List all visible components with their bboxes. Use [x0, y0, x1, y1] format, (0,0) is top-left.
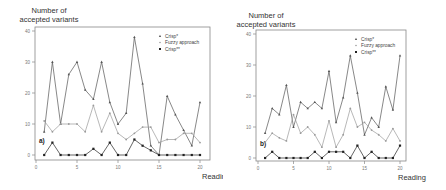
data-point	[342, 134, 344, 136]
x-axis-title: Reading	[202, 172, 223, 181]
x-tick-label: 5	[76, 165, 79, 170]
data-point	[314, 101, 316, 103]
chart-panel-a: Number of accepted variants 010203040051…	[0, 0, 223, 190]
data-point	[385, 140, 387, 142]
x-tick-label: 10	[326, 166, 332, 171]
data-point	[43, 130, 45, 132]
x-tick-label: 5	[292, 166, 295, 171]
data-point	[158, 154, 160, 156]
line-chart-b: 01020304005101520Readingb)Crisp*Fuzzy ap…	[223, 0, 446, 190]
y-tick-label: 20	[25, 91, 31, 96]
data-point	[158, 142, 160, 144]
data-point	[264, 142, 266, 144]
y-tick-label: 40	[25, 29, 31, 34]
data-point	[392, 157, 394, 159]
y-tick-label: 30	[25, 60, 31, 65]
data-point	[335, 151, 337, 153]
data-point	[141, 82, 143, 84]
data-point	[321, 157, 323, 159]
data-point	[68, 123, 70, 125]
data-point	[392, 128, 394, 130]
data-point	[307, 126, 309, 128]
x-axis-title: Reading	[398, 173, 426, 182]
data-point	[342, 151, 344, 153]
legend-marker-icon	[159, 48, 161, 50]
y-tick-label: 20	[246, 94, 252, 99]
data-point	[76, 154, 78, 156]
data-point	[392, 109, 394, 111]
data-point	[314, 151, 316, 153]
data-point	[133, 138, 135, 140]
data-point	[385, 85, 387, 87]
data-point	[166, 154, 168, 156]
legend-marker-icon	[159, 35, 161, 37]
data-point	[60, 154, 62, 156]
data-point	[109, 101, 111, 103]
data-point	[271, 151, 273, 153]
data-point	[183, 154, 185, 156]
data-point	[101, 131, 103, 133]
y-tick-label: 30	[246, 63, 252, 68]
chart-panel-b: Number of accepted variants 010203040051…	[223, 0, 446, 190]
line-chart-a: 01020304005101520Readinga)Crisp*Fuzzy ap…	[0, 0, 223, 190]
data-point	[399, 54, 401, 56]
data-point	[199, 101, 201, 103]
data-point	[51, 142, 53, 144]
legend-marker-icon	[355, 45, 357, 47]
data-point	[101, 154, 103, 156]
data-point	[363, 157, 365, 159]
panel-label: a)	[39, 137, 45, 145]
data-point	[109, 112, 111, 114]
data-point	[199, 142, 201, 144]
legend-label: Crisp*	[361, 37, 374, 42]
data-point	[271, 107, 273, 109]
data-point	[52, 131, 54, 133]
x-tick-label: 0	[257, 166, 260, 171]
data-point	[370, 116, 372, 118]
data-point	[357, 126, 359, 128]
data-point	[300, 157, 302, 159]
data-point	[378, 134, 380, 136]
legend-label: Crisp*	[165, 34, 178, 39]
x-tick-label: 15	[156, 165, 162, 170]
data-point	[363, 133, 365, 135]
data-point	[93, 105, 95, 107]
data-point	[125, 139, 127, 141]
data-point	[328, 70, 330, 72]
series-line	[44, 140, 200, 156]
data-point	[300, 132, 302, 134]
legend-marker-icon	[159, 42, 161, 44]
x-tick-label: 15	[362, 166, 368, 171]
data-point	[68, 154, 70, 156]
plot-frame	[256, 30, 406, 161]
series-line	[265, 56, 400, 135]
y-tick-label: 10	[25, 122, 31, 127]
data-point	[125, 112, 127, 114]
data-point	[342, 96, 344, 98]
data-point	[286, 140, 288, 142]
data-point	[150, 144, 152, 146]
data-point	[364, 121, 366, 123]
data-point	[285, 157, 287, 159]
x-tick-label: 20	[197, 165, 203, 170]
data-point	[142, 126, 144, 128]
data-point	[335, 121, 337, 123]
data-point	[349, 54, 351, 56]
legend-marker-icon	[355, 38, 357, 40]
data-point	[166, 95, 168, 97]
y-tick-label: 0	[248, 156, 251, 161]
data-point	[84, 154, 86, 156]
data-point	[150, 149, 152, 151]
data-point	[100, 61, 102, 63]
data-point	[292, 126, 294, 128]
data-point	[60, 123, 62, 125]
data-point	[51, 61, 53, 63]
y-tick-label: 40	[246, 32, 252, 37]
y-tick-label: 10	[246, 125, 252, 130]
data-point	[142, 145, 144, 147]
x-tick-label: 10	[115, 165, 121, 170]
x-tick-label: 0	[35, 165, 38, 170]
legend-label: Crisp**	[361, 50, 376, 55]
data-point	[76, 61, 78, 63]
x-tick-label: 20	[397, 166, 403, 171]
